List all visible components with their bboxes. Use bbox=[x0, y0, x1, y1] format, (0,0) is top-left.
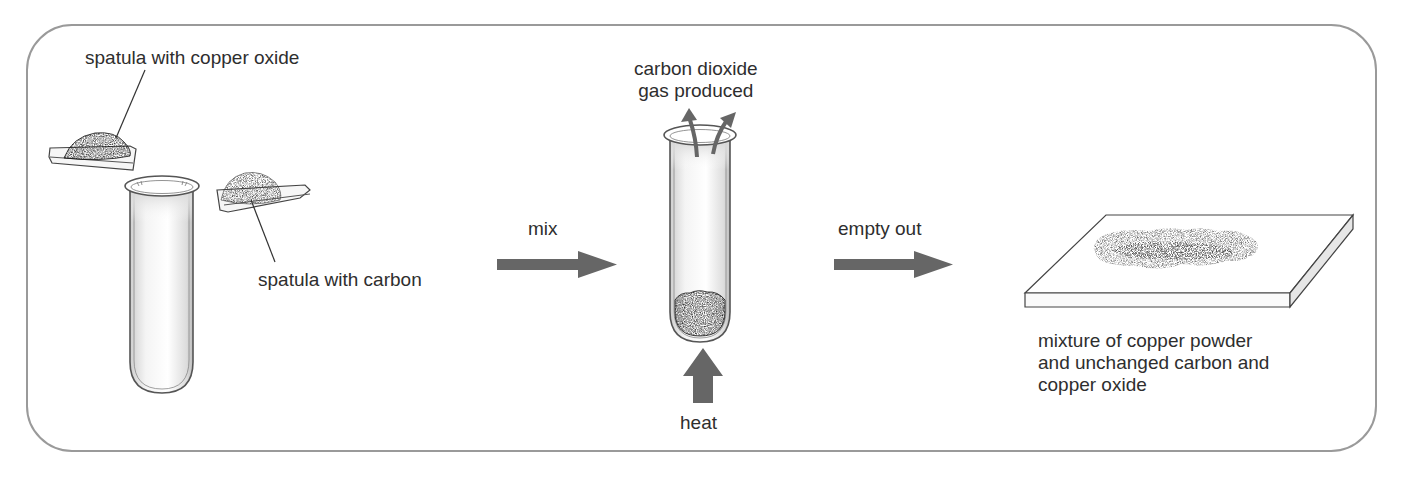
heat-label: heat bbox=[680, 412, 717, 434]
mixture-result-label: mixture of copper powder and unchanged c… bbox=[1038, 330, 1269, 396]
carbon-dioxide-gas-label: carbon dioxide gas produced bbox=[634, 58, 758, 102]
empty-test-tube-icon bbox=[125, 176, 199, 393]
diagram-stage: spatula with copper oxide spatula with c… bbox=[0, 0, 1403, 483]
copper-oxide-spatula-label: spatula with copper oxide bbox=[85, 47, 299, 69]
mix-label: mix bbox=[528, 218, 558, 240]
heated-test-tube-icon bbox=[664, 125, 736, 342]
carbon-spatula-label: spatula with carbon bbox=[258, 269, 422, 291]
empty-out-label: empty out bbox=[838, 218, 921, 240]
